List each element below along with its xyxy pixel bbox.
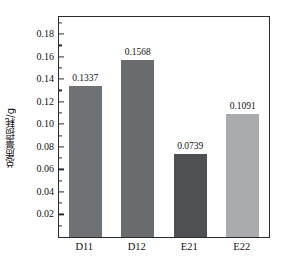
y-tick-label: 0.18 (37, 28, 55, 39)
bar-slot: 0.1568 (121, 17, 154, 237)
bar (226, 114, 259, 237)
y-tick-label: 0.08 (37, 140, 55, 151)
plot-area: 0.13370.15680.07390.1091 (58, 16, 270, 238)
bar (174, 154, 207, 237)
bar-series: 0.13370.15680.07390.1091 (59, 17, 269, 237)
y-tick-label: 0.12 (37, 95, 55, 106)
bar-chart-figure: 总质量损耗/g 0.020.040.060.080.100.120.140.16… (0, 0, 285, 276)
y-tick-label: 0.02 (37, 208, 55, 219)
x-tick-label: D12 (128, 241, 146, 252)
x-tick-label: E21 (181, 241, 198, 252)
bar-value-label: 0.1091 (230, 101, 256, 111)
y-tick-label: 0.10 (37, 118, 55, 129)
bar (121, 60, 154, 237)
bar-value-label: 0.1568 (125, 47, 151, 57)
bar-value-label: 0.1337 (72, 73, 98, 83)
y-axis-tick-labels: 0.020.040.060.080.100.120.140.160.18 (16, 0, 58, 276)
y-tick-label: 0.06 (37, 163, 55, 174)
y-tick-label: 0.04 (37, 185, 55, 196)
bar-value-label: 0.0739 (177, 141, 203, 151)
y-tick-label: 0.14 (37, 73, 55, 84)
y-tick-label: 0.16 (37, 50, 55, 61)
bar (69, 86, 102, 237)
bar-slot: 0.0739 (174, 17, 207, 237)
x-tick-label: E22 (233, 241, 250, 252)
x-axis-tick-labels: D11D12E21E22 (58, 241, 270, 261)
y-axis-title-text: 总质量损耗/g (6, 108, 16, 168)
bar-slot: 0.1091 (226, 17, 259, 237)
x-tick-label: D11 (75, 241, 93, 252)
bar-slot: 0.1337 (69, 17, 102, 237)
